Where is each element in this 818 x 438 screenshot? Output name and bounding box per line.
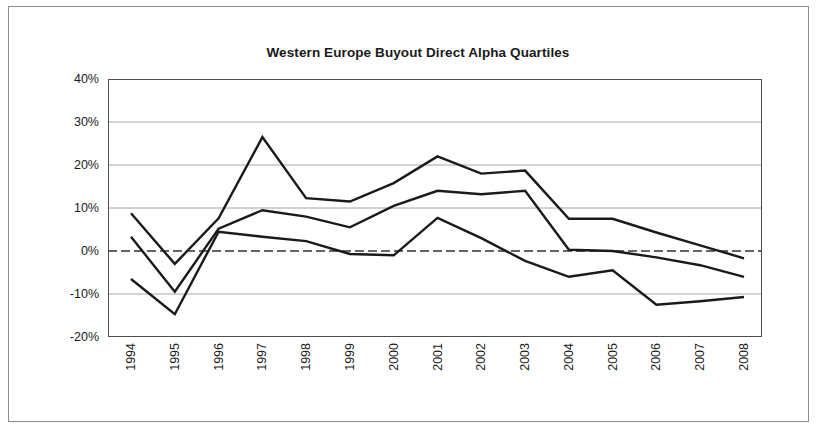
x-axis-tick-label: 1994: [124, 343, 138, 371]
x-axis-labels: 1994199519961997199819992000200120022003…: [108, 343, 762, 423]
x-axis-tick-label: 1995: [168, 343, 182, 371]
y-axis-tick-label: -10%: [39, 287, 99, 301]
x-axis-tick-label: 2003: [518, 343, 532, 371]
x-axis-tick-label: 2008: [737, 343, 751, 371]
x-axis-tick-label: 1996: [212, 343, 226, 371]
figure-frame: Western Europe Buyout Direct Alpha Quart…: [8, 6, 809, 422]
x-axis-tick-label: 2007: [693, 343, 707, 371]
x-axis-tick-label: 1997: [255, 343, 269, 371]
x-axis-tick-label: 2001: [431, 343, 445, 371]
y-axis-tick-label: 10%: [39, 201, 99, 215]
x-axis-tick-label: 2006: [649, 343, 663, 371]
chart-title: Western Europe Buyout Direct Alpha Quart…: [9, 45, 818, 60]
x-axis-tick-label: 2004: [562, 343, 576, 371]
x-axis-tick-label: 1998: [299, 343, 313, 371]
y-axis-tick-label: -20%: [39, 330, 99, 344]
y-axis-tick-label: 30%: [39, 115, 99, 129]
y-axis-tick-label: 20%: [39, 158, 99, 172]
x-axis-tick-label: 1999: [343, 343, 357, 371]
x-axis-tick-label: 2000: [387, 343, 401, 371]
x-axis-tick-label: 2002: [474, 343, 488, 371]
y-axis-tick-label: 0%: [39, 244, 99, 258]
plot-area: [108, 79, 762, 337]
y-axis-tick-label: 40%: [39, 72, 99, 86]
x-axis-tick-label: 2005: [606, 343, 620, 371]
plot-border: [108, 79, 762, 337]
y-axis-labels: 40%30%20%10%0%-10%-20%: [35, 79, 99, 337]
